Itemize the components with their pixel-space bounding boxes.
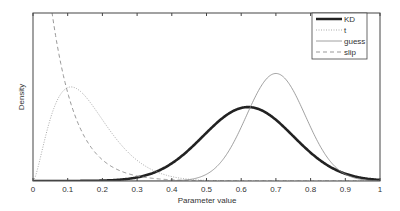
y-axis-label: Density <box>17 84 26 111</box>
x-tick-label: 0.7 <box>270 185 282 194</box>
legend-guess: guess <box>344 37 365 46</box>
x-axis-label: Parameter value <box>178 196 237 205</box>
x-tick-label: 0.8 <box>305 185 317 194</box>
series-kd-curve <box>33 107 380 181</box>
legend-slip: slip <box>344 48 357 57</box>
x-tick-label: 0.1 <box>62 185 74 194</box>
legend-kd: KD <box>344 15 355 24</box>
x-tick-label: 0.5 <box>201 185 213 194</box>
x-tick-label: 0 <box>31 185 36 194</box>
legend: KD t guess slip <box>312 13 367 59</box>
density-chart: 00.10.20.30.40.50.60.70.80.91 Parameter … <box>0 0 400 211</box>
x-tick-label: 0.9 <box>340 185 352 194</box>
x-tick-label: 1 <box>378 185 383 194</box>
x-tick-label: 0.3 <box>132 185 144 194</box>
x-tick-label: 0.2 <box>97 185 109 194</box>
x-tick-label: 0.6 <box>236 185 248 194</box>
x-tick-label: 0.4 <box>166 185 178 194</box>
